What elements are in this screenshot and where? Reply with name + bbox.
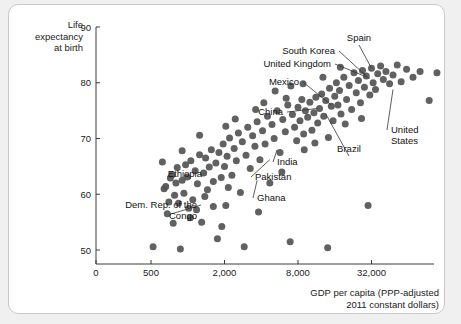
svg-text:China: China xyxy=(258,106,284,117)
svg-text:India: India xyxy=(277,156,298,167)
svg-text:0: 0 xyxy=(93,267,98,278)
svg-text:Spain: Spain xyxy=(347,32,371,43)
svg-text:8,000: 8,000 xyxy=(286,267,310,278)
svg-text:United Kingdom: United Kingdom xyxy=(263,58,331,69)
svg-text:Ghana: Ghana xyxy=(257,192,286,203)
svg-text:32,000: 32,000 xyxy=(357,267,386,278)
svg-text:500: 500 xyxy=(143,267,159,278)
svg-text:Brazil: Brazil xyxy=(337,143,361,154)
svg-text:Mexico: Mexico xyxy=(269,76,299,87)
chart-card: Life expectancy at birth GDP per capita … xyxy=(8,4,445,314)
svg-text:Dem. Rep. of theCongo: Dem. Rep. of theCongo xyxy=(125,199,197,221)
svg-text:50: 50 xyxy=(80,245,91,256)
svg-text:UnitedStates: UnitedStates xyxy=(391,124,418,146)
svg-text:70: 70 xyxy=(80,133,91,144)
svg-text:Pakistan: Pakistan xyxy=(255,171,291,182)
svg-text:60: 60 xyxy=(80,189,91,200)
svg-text:2,000: 2,000 xyxy=(213,267,237,278)
svg-text:90: 90 xyxy=(80,22,91,33)
svg-text:Ethiopia: Ethiopia xyxy=(168,168,203,179)
svg-text:80: 80 xyxy=(80,77,91,88)
scatter-plot: 506070809005002,0008,00032,000 SpainSout… xyxy=(9,5,445,314)
svg-text:South Korea: South Korea xyxy=(282,45,336,56)
